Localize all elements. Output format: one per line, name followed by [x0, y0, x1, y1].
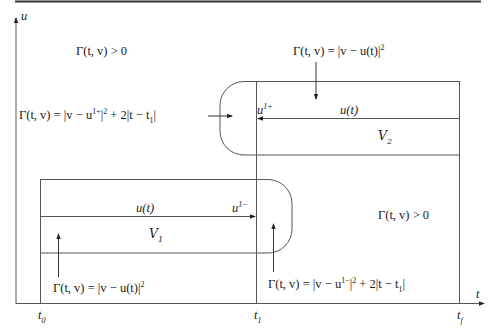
- gamma-lower-cap-pre: Γ(t, v) = |v − u: [268, 277, 341, 291]
- u1-minus-label: u1−: [232, 202, 248, 215]
- tick-t0-sub: 0: [41, 316, 45, 325]
- gamma-lower-cap-post: + 2|t − t: [356, 277, 398, 291]
- region-v1-sub: 1: [158, 235, 163, 244]
- gamma-lower-tracking-text: Γ(t, v) = |v − u(t)|: [53, 281, 140, 295]
- gamma-upper-cap-post: + 2|t − t: [107, 108, 149, 122]
- gamma-lower-cap-end: |: [402, 277, 405, 291]
- gamma-upper-tracking-sup: 2: [380, 43, 384, 52]
- gamma-lower-cap: Γ(t, v) = |v − u1−|2 + 2|t − t1|: [268, 278, 405, 291]
- gamma-lower-tracking: Γ(t, v) = |v − u(t)|2: [53, 282, 144, 295]
- region-v2-base: V: [378, 128, 387, 143]
- gamma-lower-tracking-sup: 2: [140, 280, 144, 289]
- u1-minus-sup: 1−: [238, 200, 247, 209]
- t-axis-label: t: [476, 288, 479, 301]
- tick-t1-sub: 1: [257, 316, 261, 325]
- gamma-positive-bottom-right: Γ(t, v) > 0: [378, 209, 429, 222]
- gamma-upper-cap-sup1: 1+: [92, 107, 101, 116]
- gamma-upper-tracking-text: Γ(t, v) = |v − u(t)|: [293, 44, 380, 58]
- tick-t1: t1: [254, 309, 261, 322]
- gamma-upper-cap-pre: Γ(t, v) = |v − u: [19, 108, 92, 122]
- u1-plus-sup: 1+: [263, 102, 272, 111]
- region-v2-label: V2: [378, 130, 392, 143]
- region-v1-base: V: [149, 226, 158, 241]
- gamma-lower-cap-sup1: 1−: [341, 276, 350, 285]
- region-v1-label: V1: [149, 228, 163, 241]
- gamma-upper-cap: Γ(t, v) = |v − u1+|2 + 2|t − t1|: [19, 109, 156, 122]
- u1-plus-label: u1+: [257, 104, 273, 117]
- u-axis-label: u: [21, 10, 27, 23]
- gamma-positive-top-left: Γ(t, v) > 0: [76, 45, 127, 58]
- region-v2-sub: 2: [387, 137, 392, 146]
- u-t-upper-label: u(t): [340, 104, 358, 117]
- tick-tf-sub: f: [460, 316, 462, 325]
- tick-t0: t0: [38, 309, 45, 322]
- gamma-upper-tracking: Γ(t, v) = |v − u(t)|2: [293, 45, 384, 58]
- gamma-upper-cap-end: |: [153, 108, 156, 122]
- u-t-lower-label: u(t): [136, 202, 154, 215]
- tick-tf: tf: [457, 309, 463, 322]
